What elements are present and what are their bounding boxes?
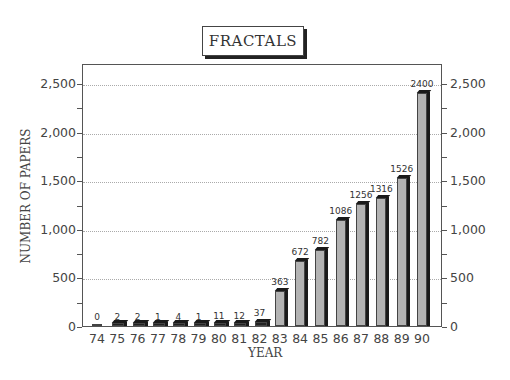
x-tick-label-85: 85 — [312, 331, 328, 346]
x-axis-title: YEAR — [248, 346, 282, 360]
bar-86 — [336, 220, 346, 326]
data-label-78: 4 — [175, 312, 181, 322]
y-axis-title: NUMBER OF PAPERS — [19, 128, 33, 263]
bar-shadow-side — [267, 321, 270, 326]
data-label-90: 2400 — [411, 79, 434, 89]
bar-82 — [255, 322, 267, 326]
tick-mark — [77, 230, 82, 231]
data-label-75: 2 — [114, 312, 120, 322]
x-tick-label-90: 90 — [414, 331, 430, 346]
data-label-79: 1 — [196, 312, 202, 322]
bar-75 — [112, 323, 124, 326]
tick-mark — [77, 84, 82, 85]
plot-area — [82, 64, 442, 327]
y-tick-label-right: 2,000 — [450, 125, 486, 140]
x-tick-label-75: 75 — [109, 331, 125, 346]
bar-84 — [295, 261, 305, 326]
bar-83 — [275, 291, 285, 326]
tick-mark — [77, 133, 82, 134]
tick-mark — [77, 327, 82, 328]
bar-shadow-side — [427, 92, 430, 326]
bar-78 — [173, 323, 185, 326]
bar-shadow-side — [285, 290, 288, 326]
x-tick-label-78: 78 — [170, 331, 186, 346]
bar-90 — [417, 93, 427, 326]
tick-mark — [77, 278, 82, 279]
data-label-74: 0 — [94, 312, 100, 322]
data-label-82: 37 — [254, 308, 265, 318]
data-label-77: 1 — [155, 312, 161, 322]
x-tick-label-80: 80 — [211, 331, 227, 346]
bar-shadow-side — [366, 203, 369, 326]
x-tick-label-74: 74 — [89, 331, 105, 346]
bar-76 — [133, 323, 145, 326]
data-label-80: 11 — [213, 311, 224, 321]
bar-shadow-side — [386, 197, 389, 326]
tick-mark — [442, 157, 447, 158]
bar-80 — [214, 323, 226, 326]
y-tick-label-right: 0 — [450, 319, 458, 334]
tick-mark — [442, 206, 447, 207]
x-tick-label-88: 88 — [373, 331, 389, 346]
y-tick-label-left: 1,000 — [40, 222, 76, 237]
tick-mark — [442, 230, 447, 231]
data-label-81: 12 — [233, 311, 244, 321]
gridline — [83, 134, 441, 135]
gridline — [83, 182, 441, 183]
tick-mark — [442, 133, 447, 134]
data-label-89: 1526 — [390, 164, 413, 174]
data-label-88: 1316 — [370, 184, 393, 194]
tick-mark — [442, 181, 447, 182]
data-label-85: 782 — [312, 236, 329, 246]
x-tick-label-84: 84 — [292, 331, 308, 346]
tick-mark — [77, 206, 82, 207]
x-tick-label-76: 76 — [130, 331, 146, 346]
bar-shadow-cap — [275, 288, 290, 291]
x-tick-label-86: 86 — [333, 331, 349, 346]
y-tick-label-right: 500 — [450, 270, 474, 285]
bar-88 — [376, 198, 386, 326]
bar-89 — [397, 178, 407, 326]
y-tick-label-left: 500 — [52, 270, 76, 285]
tick-mark — [442, 303, 447, 304]
data-label-86: 1086 — [329, 206, 352, 216]
tick-mark — [77, 181, 82, 182]
x-tick-label-77: 77 — [150, 331, 166, 346]
bar-shadow-side — [325, 249, 328, 326]
tick-mark — [442, 84, 447, 85]
tick-mark — [442, 278, 447, 279]
tick-mark — [442, 327, 447, 328]
x-tick-label-81: 81 — [231, 331, 247, 346]
bar-shadow-side — [305, 260, 308, 326]
bar-77 — [153, 323, 165, 326]
bar-81 — [234, 323, 246, 326]
bar-shadow-cap — [356, 201, 371, 204]
tick-mark — [77, 254, 82, 255]
bar-79 — [194, 323, 206, 326]
bar-85 — [315, 250, 325, 326]
bar-shadow-cap — [396, 175, 411, 178]
x-tick-label-87: 87 — [353, 331, 369, 346]
y-tick-label-right: 1,000 — [450, 222, 486, 237]
tick-mark — [442, 108, 447, 109]
y-tick-label-left: 2,000 — [40, 125, 76, 140]
bar-74 — [92, 324, 102, 326]
bar-shadow-side — [407, 177, 410, 326]
gridline — [83, 85, 441, 86]
tick-mark — [77, 157, 82, 158]
data-label-83: 363 — [271, 277, 288, 287]
y-tick-label-left: 2,500 — [40, 76, 76, 91]
tick-mark — [77, 303, 82, 304]
x-tick-label-83: 83 — [272, 331, 288, 346]
tick-mark — [77, 108, 82, 109]
x-tick-label-89: 89 — [394, 331, 410, 346]
data-label-76: 2 — [135, 312, 141, 322]
x-tick-label-82: 82 — [252, 331, 268, 346]
bar-shadow-cap — [295, 258, 310, 261]
x-tick-label-79: 79 — [191, 331, 207, 346]
data-label-84: 672 — [292, 247, 309, 257]
y-tick-label-right: 1,500 — [450, 173, 486, 188]
y-tick-label-left: 0 — [68, 319, 76, 334]
chart-title: FRACTALS — [202, 26, 304, 56]
bar-87 — [356, 204, 366, 326]
